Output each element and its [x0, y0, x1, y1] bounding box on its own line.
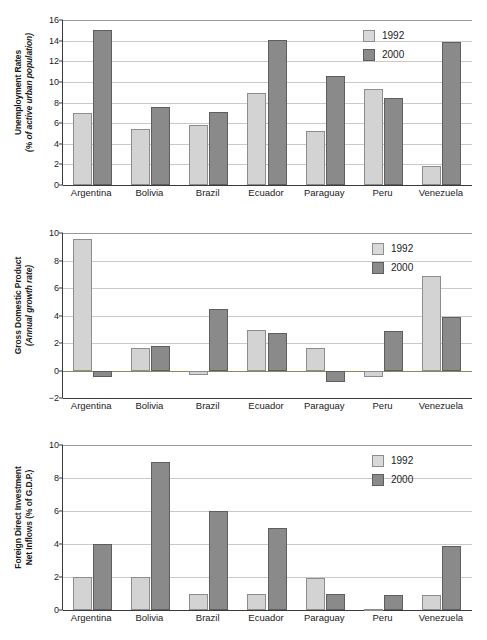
y-axis-tick-label: 10 — [49, 441, 59, 450]
x-axis-label-argentina: Argentina — [71, 613, 112, 623]
bar-ecuador-1992 — [247, 93, 266, 185]
bar-argentina-2000 — [93, 544, 112, 610]
plot-area-unemployment: 0246810121416 — [62, 20, 470, 185]
legend-item-1992: 1992 — [363, 30, 404, 42]
y-axis-tick-label: 10 — [49, 77, 59, 86]
bar-brazil-2000 — [209, 112, 228, 185]
bar-peru-1992 — [364, 89, 383, 185]
bar-venezuela-2000 — [442, 42, 461, 185]
bar-ecuador-2000 — [268, 333, 287, 371]
y-axis-tick-label: 14 — [49, 36, 59, 45]
bar-bolivia-2000 — [151, 107, 170, 185]
legend-swatch-1992-icon — [372, 243, 384, 255]
bar-ecuador-2000 — [268, 528, 287, 611]
chart-gdp: Gross Domestic Product(Annual growth rat… — [0, 215, 487, 425]
chart-fdi: Foreign Direct InvestmentNet Inflows (% … — [0, 427, 487, 637]
x-axis-label-peru: Peru — [373, 188, 393, 198]
legend-label-2000: 2000 — [391, 475, 413, 485]
x-axis-label-brazil: Brazil — [196, 613, 220, 623]
x-axis-line — [63, 398, 472, 399]
y-axis-tick-label: 16 — [49, 16, 59, 25]
bar-venezuela-1992 — [422, 276, 441, 371]
x-axis-line — [63, 610, 472, 611]
legend-item-1992: 1992 — [372, 243, 413, 255]
legend-item-2000: 2000 — [372, 262, 413, 274]
legend-swatch-1992-icon — [363, 30, 375, 42]
legend-gdp: 1992 2000 — [372, 243, 413, 274]
legend-fdi: 1992 2000 — [372, 455, 413, 486]
bar-brazil-2000 — [209, 309, 228, 370]
x-axis-label-argentina: Argentina — [71, 401, 112, 411]
x-axis-label-peru: Peru — [373, 613, 393, 623]
legend-label-1992: 1992 — [382, 31, 404, 41]
bar-bolivia-2000 — [151, 346, 170, 370]
bar-paraguay-1992 — [306, 348, 325, 371]
bar-bolivia-1992 — [131, 129, 150, 185]
bar-venezuela-1992 — [422, 166, 441, 185]
x-axis-label-ecuador: Ecuador — [248, 401, 283, 411]
legend-label-2000: 2000 — [391, 263, 413, 273]
bar-ecuador-2000 — [268, 40, 287, 185]
legend-item-1992: 1992 — [372, 455, 413, 467]
y-axis-title-unemployment: Unemployment Rates(% of active urban pop… — [11, 5, 37, 180]
bar-bolivia-1992 — [131, 577, 150, 610]
bar-paraguay-2000 — [326, 371, 345, 382]
y-axis-tick-label: −2 — [49, 394, 59, 403]
bar-peru-2000 — [384, 331, 403, 371]
bar-paraguay-1992 — [306, 578, 325, 610]
bar-paraguay-2000 — [326, 594, 345, 610]
x-axis-label-venezuela: Venezuela — [419, 188, 463, 198]
legend-swatch-1992-icon — [372, 455, 384, 467]
legend-swatch-2000-icon — [372, 262, 384, 274]
legend-label-1992: 1992 — [391, 244, 413, 254]
bar-paraguay-1992 — [306, 131, 325, 185]
bar-venezuela-2000 — [442, 546, 461, 610]
bar-argentina-1992 — [73, 577, 92, 610]
x-axis-label-paraguay: Paraguay — [304, 613, 345, 623]
bar-ecuador-1992 — [247, 594, 266, 611]
legend-item-2000: 2000 — [363, 49, 404, 61]
legend-label-2000: 2000 — [382, 50, 404, 60]
bar-peru-2000 — [384, 595, 403, 610]
bar-brazil-1992 — [189, 371, 208, 376]
legend-swatch-2000-icon — [363, 49, 375, 61]
bar-ecuador-1992 — [247, 330, 266, 371]
bar-paraguay-2000 — [326, 76, 345, 185]
bar-peru-1992 — [364, 609, 383, 611]
y-axis-tick-label: 10 — [49, 229, 59, 238]
bar-peru-2000 — [384, 98, 403, 185]
x-axis-label-brazil: Brazil — [196, 188, 220, 198]
x-axis-label-paraguay: Paraguay — [304, 401, 345, 411]
x-axis-label-venezuela: Venezuela — [419, 613, 463, 623]
x-axis-label-peru: Peru — [373, 401, 393, 411]
x-axis-label-argentina: Argentina — [71, 188, 112, 198]
y-axis-title-gdp: Gross Domestic Product(Annual growth rat… — [11, 218, 37, 393]
x-axis-label-bolivia: Bolivia — [135, 401, 163, 411]
legend-item-2000: 2000 — [372, 474, 413, 486]
bar-argentina-1992 — [73, 239, 92, 371]
bar-argentina-1992 — [73, 113, 92, 185]
x-axis-label-venezuela: Venezuela — [419, 401, 463, 411]
chart-unemployment: Unemployment Rates(% of active urban pop… — [0, 2, 487, 212]
bar-venezuela-2000 — [442, 317, 461, 371]
bar-venezuela-1992 — [422, 595, 441, 610]
x-axis-label-paraguay: Paraguay — [304, 188, 345, 198]
bar-bolivia-1992 — [131, 348, 150, 371]
legend-unemployment: 1992 2000 — [363, 30, 404, 61]
legend-swatch-2000-icon — [372, 474, 384, 486]
x-axis-label-ecuador: Ecuador — [248, 188, 283, 198]
bar-bolivia-2000 — [151, 462, 170, 611]
x-axis-label-bolivia: Bolivia — [135, 613, 163, 623]
y-axis-title-fdi: Foreign Direct InvestmentNet Inflows (% … — [11, 430, 37, 605]
bar-argentina-2000 — [93, 371, 112, 378]
bar-brazil-2000 — [209, 511, 228, 610]
bar-brazil-1992 — [189, 594, 208, 611]
bars-unemployment — [63, 20, 470, 185]
x-axis-line — [63, 185, 472, 186]
y-axis-tick-label: 12 — [49, 57, 59, 66]
x-axis-label-ecuador: Ecuador — [248, 613, 283, 623]
bar-argentina-2000 — [93, 30, 112, 185]
bar-brazil-1992 — [189, 125, 208, 185]
x-axis-label-bolivia: Bolivia — [135, 188, 163, 198]
figure-page: Unemployment Rates(% of active urban pop… — [0, 0, 487, 640]
